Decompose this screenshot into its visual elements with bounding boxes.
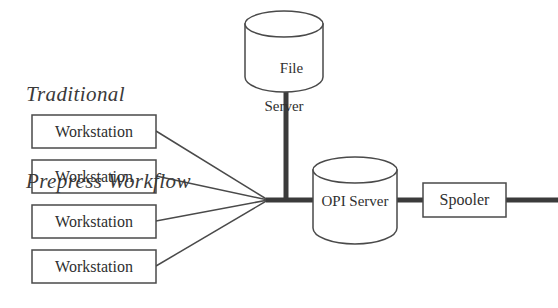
file-server-shape[interactable] (245, 11, 323, 92)
workstation-box-4[interactable] (32, 250, 156, 283)
file-server-top (245, 11, 323, 37)
spooler-shape[interactable] (423, 183, 506, 217)
diagram-title: Traditional Prepress Workflow (26, 22, 256, 254)
spooler-box (423, 183, 506, 217)
network-backbone (266, 92, 558, 200)
opi-server-top (313, 157, 397, 183)
prepress-workflow-diagram: Traditional Prepress Workflow Workstatio… (0, 0, 558, 308)
diagram-title-line-1: Traditional (26, 80, 256, 109)
diagram-title-line-2: Prepress Workflow (26, 167, 256, 196)
opi-server-shape[interactable] (313, 157, 397, 244)
